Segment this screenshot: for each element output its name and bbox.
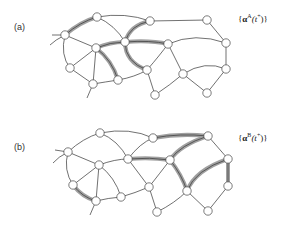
nodes (61, 13, 230, 99)
panel-b: (b) {αB(t+)} (0, 115, 286, 230)
highlighted-edges (65, 17, 168, 80)
network-graph-a (0, 0, 286, 115)
panel-a: (a) {αA(t+)} (0, 0, 286, 115)
network-graph-b (0, 115, 286, 230)
